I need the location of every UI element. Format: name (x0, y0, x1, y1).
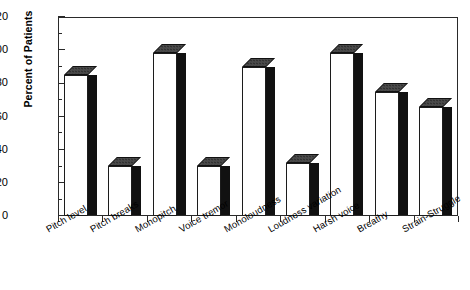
y-minor-tick-30 (58, 166, 62, 167)
y-tick-label-100: 100 (0, 44, 8, 55)
y-tick-label-120: 120 (0, 11, 8, 22)
bar-front-face (64, 75, 88, 216)
y-axis-title: Percent of Patients (22, 0, 34, 139)
bar-3 (153, 44, 186, 216)
bar-top-face (419, 98, 452, 107)
y-minor-tick-110 (58, 33, 62, 34)
bar-top-face (286, 154, 319, 163)
y-minor-tick-90 (58, 66, 62, 67)
bar-top-face (64, 66, 97, 75)
bar-top-face (153, 44, 186, 53)
bar-front-face (375, 92, 399, 216)
bar-front-face (242, 67, 266, 216)
y-minor-tick-50 (58, 132, 62, 133)
bar-side-face (354, 53, 363, 215)
y-tick-100 (58, 49, 65, 50)
bar-side-face (266, 67, 275, 215)
bar-chart: Percent of Patients 020406080100120 Pitc… (0, 0, 470, 290)
y-tick-label-0: 0 (0, 210, 8, 221)
x-tick-9 (458, 216, 459, 222)
y-minor-tick-70 (58, 99, 62, 100)
bar-side-face (177, 53, 186, 215)
bar-front-face (419, 107, 443, 216)
bar-8 (375, 83, 408, 216)
bar-top-face (197, 157, 230, 166)
bar-top-face (242, 58, 275, 67)
y-tick-label-20: 20 (0, 177, 8, 188)
y-tick-label-60: 60 (0, 111, 8, 122)
y-tick-label-40: 40 (0, 144, 8, 155)
bar-top-face (330, 44, 363, 53)
bar-top-face (375, 83, 408, 92)
bar-1 (64, 66, 97, 216)
y-tick-label-80: 80 (0, 77, 8, 88)
bar-5 (242, 58, 275, 216)
bar-side-face (88, 75, 97, 215)
bar-side-face (399, 92, 408, 215)
y-minor-tick-10 (58, 199, 62, 200)
y-tick-120 (58, 16, 65, 17)
bar-top-face (108, 157, 141, 166)
bar-front-face (153, 53, 177, 216)
